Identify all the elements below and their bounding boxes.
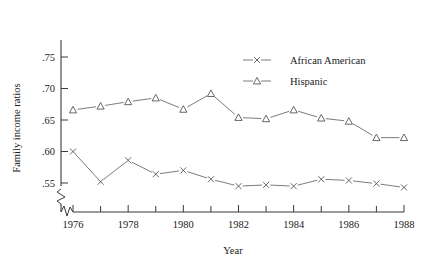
family-income-ratios-chart: .75.70.65.60.55 197619781980198219841986…	[0, 0, 421, 264]
data-point-marker	[236, 183, 242, 189]
y-tick-label: .60	[42, 146, 55, 157]
data-point-marker	[400, 134, 407, 141]
data-point-marker	[345, 118, 352, 125]
data-point-marker	[318, 176, 324, 182]
series-african-american	[70, 149, 407, 191]
legend: African AmericanHispanic	[243, 55, 366, 87]
data-point-marker	[70, 149, 76, 155]
data-point-marker	[318, 115, 325, 122]
data-point-marker	[98, 179, 104, 185]
x-tick-label: 1982	[228, 219, 249, 230]
data-point-marker	[373, 134, 380, 141]
x-tick-label: 1984	[283, 219, 305, 230]
y-tick-label: .65	[42, 115, 55, 126]
x-tick-label: 1988	[394, 219, 415, 230]
data-point-marker	[180, 106, 187, 113]
x-tick-label: 1978	[118, 219, 139, 230]
legend-label: Hispanic	[290, 76, 328, 87]
data-point-marker	[125, 157, 131, 163]
data-point-marker	[262, 115, 269, 122]
legend-item: Hispanic	[243, 76, 328, 87]
data-point-marker	[290, 106, 297, 113]
y-tick-label: .70	[42, 83, 55, 94]
y-axis-title: Family income ratios	[11, 83, 22, 172]
series-layer	[69, 90, 407, 190]
y-tick-label: .75	[42, 52, 55, 63]
data-point-marker	[208, 176, 214, 182]
data-point-marker	[69, 106, 76, 113]
legend-marker-icon	[254, 57, 260, 63]
data-point-marker	[180, 167, 186, 173]
data-point-marker	[401, 184, 407, 190]
series-hispanic	[69, 90, 407, 141]
data-point-marker	[291, 183, 297, 189]
legend-item: African American	[243, 55, 366, 66]
x-tick-label: 1976	[63, 219, 84, 230]
data-point-marker	[263, 182, 269, 188]
x-tick-label: 1980	[173, 219, 194, 230]
data-point-marker	[152, 94, 159, 101]
y-axis-break-symbol	[57, 189, 65, 204]
x-tick-label: 1986	[338, 219, 359, 230]
data-point-marker	[153, 171, 159, 177]
legend-label: African American	[290, 55, 366, 66]
data-point-marker	[346, 177, 352, 183]
x-tick-group: 1976197819801982198419861988	[63, 205, 415, 230]
data-point-marker	[125, 98, 132, 105]
x-axis-title: Year	[223, 245, 243, 256]
x-axis-break-symbol	[61, 206, 73, 216]
data-point-marker	[97, 103, 104, 110]
data-point-marker	[373, 181, 379, 187]
y-axis-group	[57, 40, 65, 212]
x-axis-group	[61, 206, 404, 216]
legend-marker-icon	[253, 77, 260, 84]
y-tick-label: .55	[42, 178, 55, 189]
data-point-marker	[235, 114, 242, 121]
y-tick-group: .75.70.65.60.55	[42, 52, 68, 189]
data-point-marker	[207, 90, 214, 97]
